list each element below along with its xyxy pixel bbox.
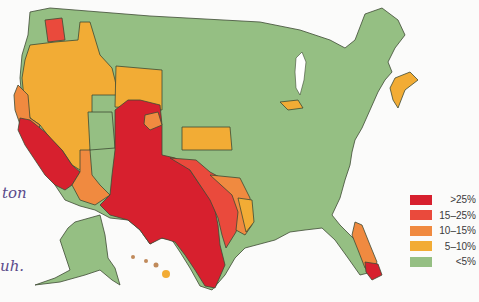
region-lt5-alaska [35,215,120,285]
legend-swatch [410,241,432,251]
region-15-25-washington [45,18,65,42]
region-5-10-kansas [182,127,232,150]
region-gt25-florida-tip [365,262,382,280]
legend-item-lt5: <5% [410,254,479,270]
region-lt5-utah [88,112,115,150]
legend-item-15-25: 15–25% [410,208,479,224]
legend-item-gt25: >25% [410,192,479,208]
handwritten-note-2: uh. [0,257,24,275]
legend-swatch [410,210,432,220]
legend-item-5-10: 5–10% [410,239,479,255]
legend-label: <5% [438,256,479,267]
legend-swatch [410,195,432,205]
region-5-10-northeast-corridor [390,72,418,108]
legend-swatch [410,257,432,267]
legend-label: 5–10% [438,241,479,252]
region-hawaii [131,255,170,278]
legend-label: >25% [438,194,479,205]
legend-swatch [410,226,432,236]
legend-item-10-15: 10–15% [410,223,479,239]
legend: >25% 15–25% 10–15% 5–10% <5% [410,192,479,270]
handwritten-note-1: ton [2,184,27,202]
legend-label: 15–25% [438,210,479,221]
us-choropleth-map [0,0,479,302]
legend-label: 10–15% [438,225,479,236]
